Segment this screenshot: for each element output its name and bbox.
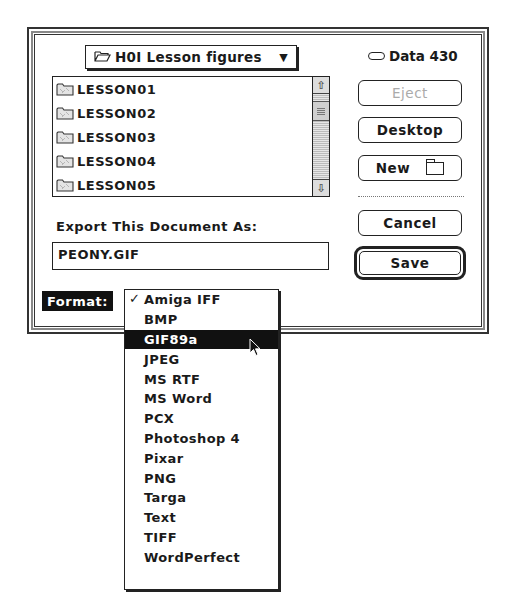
new-folder-icon: [426, 162, 444, 175]
dropdown-arrow-icon: ▼: [279, 51, 288, 64]
menu-item-ms-word[interactable]: MS Word: [125, 389, 278, 409]
menu-item-tiff[interactable]: TIFF: [125, 528, 278, 548]
list-item-lesson05[interactable]: LESSON05: [53, 173, 329, 197]
folder-icon: [56, 106, 74, 120]
menu-item-amiga-iff[interactable]: ✓Amiga IFF: [125, 290, 278, 310]
menu-item-wordperfect[interactable]: WordPerfect: [125, 547, 278, 567]
list-item-lesson04[interactable]: LESSON04: [53, 149, 329, 173]
file-list[interactable]: LESSON01 LESSON02 LESSON03 LESSON04 LESS…: [52, 76, 330, 197]
menu-item-bmp[interactable]: BMP: [125, 310, 278, 330]
menu-item-png[interactable]: PNG: [125, 468, 278, 488]
scroll-up-arrow-icon[interactable]: ⇧: [313, 77, 329, 94]
new-button-label: New: [376, 160, 410, 176]
list-item-lesson01[interactable]: LESSON01: [53, 77, 329, 101]
cancel-button[interactable]: Cancel: [358, 210, 462, 236]
folder-icon: [56, 154, 74, 168]
save-button[interactable]: Save: [359, 251, 461, 275]
list-item-lesson03[interactable]: LESSON03: [53, 125, 329, 149]
menu-item-ms-rtf[interactable]: MS RTF: [125, 369, 278, 389]
folder-icon: [56, 82, 74, 96]
mouse-pointer-icon: [249, 338, 263, 358]
list-item-lesson02[interactable]: LESSON02: [53, 101, 329, 125]
button-divider: [358, 196, 464, 197]
new-folder-button[interactable]: New: [358, 155, 462, 181]
filename-input[interactable]: PEONY.GIF: [52, 242, 329, 270]
folder-popup[interactable]: H0I Lesson figures ▼: [85, 45, 297, 69]
volume-label: Data 430: [389, 48, 458, 64]
menu-item-targa[interactable]: Targa: [125, 488, 278, 508]
open-folder-icon: [94, 49, 111, 65]
file-list-scrollbar[interactable]: ⇧ ⇩: [312, 77, 329, 196]
eject-button[interactable]: Eject: [358, 80, 462, 106]
volume-name: Data 430: [368, 48, 458, 64]
menu-item-pcx[interactable]: PCX: [125, 409, 278, 429]
export-label: Export This Document As:: [56, 219, 258, 234]
scroll-down-arrow-icon[interactable]: ⇩: [313, 179, 329, 196]
folder-popup-label: H0I Lesson figures: [115, 49, 262, 65]
format-menu[interactable]: ✓Amiga IFF BMP GIF89a JPEG MS RTF MS Wor…: [124, 289, 279, 590]
menu-item-pixar[interactable]: Pixar: [125, 448, 278, 468]
menu-item-photoshop-4[interactable]: Photoshop 4: [125, 429, 278, 449]
scroll-thumb[interactable]: [313, 101, 329, 121]
format-label[interactable]: Format:: [42, 291, 113, 311]
desktop-button[interactable]: Desktop: [358, 117, 462, 143]
default-button-ring: Save: [354, 246, 466, 280]
disk-icon: [368, 52, 385, 60]
checkmark-icon: ✓: [129, 291, 140, 306]
folder-icon: [56, 178, 74, 192]
menu-item-text[interactable]: Text: [125, 508, 278, 528]
folder-icon: [56, 130, 74, 144]
